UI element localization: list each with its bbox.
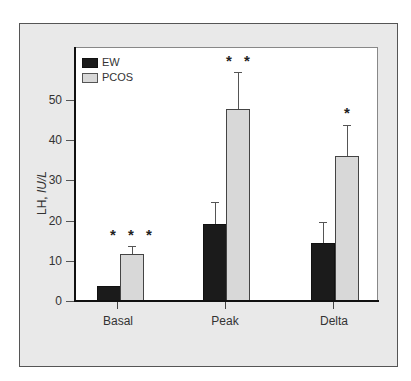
y-tick-label: 40	[36, 134, 62, 146]
error-cap	[211, 202, 219, 203]
bar-peak-ew	[203, 224, 227, 301]
bar-delta-pcos	[335, 156, 359, 301]
y-tick-label: 0	[36, 295, 62, 307]
y-tick	[66, 180, 74, 181]
error-bar	[132, 246, 133, 254]
x-label-basal: Basal	[88, 314, 148, 328]
x-tick	[117, 302, 118, 309]
legend-swatch-ew	[82, 58, 98, 68]
y-tick	[66, 140, 74, 141]
x-label-peak: Peak	[195, 314, 255, 328]
x-tick	[333, 302, 334, 309]
significance-basal: * * *	[103, 226, 163, 243]
legend-label-pcos: PCOS	[102, 71, 133, 83]
y-tick	[66, 261, 74, 262]
significance-delta: *	[319, 104, 379, 121]
significance-peak: * *	[210, 52, 270, 69]
legend-label-ew: EW	[102, 56, 120, 68]
error-cap	[343, 125, 351, 126]
y-tick	[66, 100, 74, 101]
error-bar	[215, 202, 216, 224]
legend-swatch-pcos	[82, 73, 98, 83]
x-tick	[225, 302, 226, 309]
bar-delta-ew	[311, 243, 335, 301]
bar-basal-ew	[97, 286, 121, 301]
y-axis	[74, 47, 76, 302]
y-tick-label: 50	[36, 94, 62, 106]
error-cap	[319, 222, 327, 223]
error-cap	[234, 72, 242, 73]
error-bar	[347, 125, 348, 156]
error-cap	[128, 246, 136, 247]
y-tick-label: 30	[36, 174, 62, 186]
y-tick-label: 20	[36, 215, 62, 227]
error-bar	[323, 222, 324, 243]
y-tick-label: 10	[36, 255, 62, 267]
y-tick	[66, 221, 74, 222]
bar-peak-pcos	[226, 109, 250, 301]
x-label-delta: Delta	[304, 314, 364, 328]
y-tick	[66, 301, 74, 302]
y-axis-title: LH, IU/L	[35, 163, 49, 223]
bar-basal-pcos	[120, 254, 144, 301]
error-bar	[238, 72, 239, 109]
